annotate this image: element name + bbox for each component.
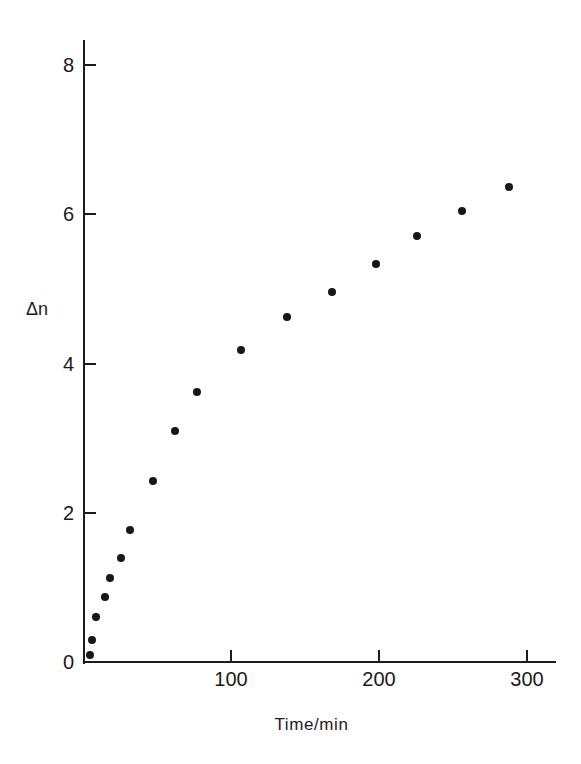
data-point bbox=[86, 651, 94, 659]
y-axis-tick-label-4: 4 bbox=[40, 354, 74, 374]
data-point bbox=[106, 574, 114, 582]
data-point bbox=[149, 477, 157, 485]
scatter-chart-figure: 0 2 4 6 8 100 200 300 Δn Time/min bbox=[0, 0, 581, 764]
x-axis-title-text: Time/min bbox=[274, 716, 348, 734]
data-point bbox=[171, 427, 179, 435]
x-axis-tick-label-100: 100 bbox=[203, 668, 259, 690]
y-axis-tick-label-6: 6 bbox=[40, 204, 74, 224]
plot-area bbox=[83, 64, 553, 662]
y-axis-tick-label-2: 2 bbox=[40, 503, 74, 523]
data-point bbox=[505, 183, 513, 191]
x-axis-tick-label-200: 200 bbox=[351, 668, 407, 690]
data-point bbox=[237, 346, 245, 354]
data-point bbox=[92, 613, 100, 621]
data-point bbox=[126, 526, 134, 534]
data-point bbox=[413, 232, 421, 240]
x-axis-tick-label-300: 300 bbox=[499, 668, 555, 690]
y-axis-title: Δn bbox=[26, 300, 48, 318]
data-point bbox=[283, 313, 291, 321]
data-point bbox=[88, 636, 96, 644]
x-axis-title: Time/min bbox=[0, 716, 581, 734]
data-point bbox=[328, 288, 336, 296]
data-point bbox=[372, 260, 380, 268]
data-point bbox=[117, 554, 125, 562]
data-point bbox=[193, 388, 201, 396]
y-axis-tick-label-0: 0 bbox=[40, 652, 74, 672]
data-point bbox=[458, 207, 466, 215]
y-axis-tick-label-8: 8 bbox=[40, 55, 74, 75]
data-point bbox=[101, 593, 109, 601]
